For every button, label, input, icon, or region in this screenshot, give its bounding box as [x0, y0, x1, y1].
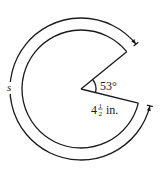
radius-label: 4 1 2 in. — [91, 102, 118, 118]
radius-label-denominator: 2 — [99, 110, 103, 118]
radius-label-unit: in. — [106, 103, 118, 117]
circle-major-arc — [22, 30, 138, 148]
angle-label: 53° — [100, 79, 117, 93]
sector-diagram: s 53° 4 1 2 in. — [0, 0, 163, 171]
angle-marker-arc — [93, 80, 96, 93]
radius-label-whole: 4 — [91, 103, 97, 117]
arc-length-indicator — [10, 18, 150, 160]
arc-length-label: s — [7, 81, 11, 93]
radius-label-numerator: 1 — [99, 102, 103, 110]
